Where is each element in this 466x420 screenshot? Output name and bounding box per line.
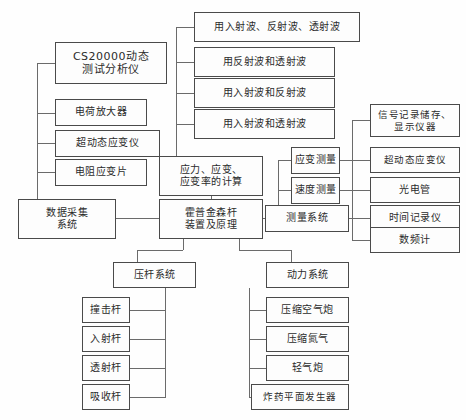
node-label: 应力、应变、 应变率的计算 [178, 164, 245, 188]
node-label: 电荷放大器 [73, 106, 130, 118]
node-label: 用入射波、反射波、透射波 [212, 21, 342, 33]
node-explosive-plane-generator[interactable]: 炸药平面发生器 [251, 384, 349, 410]
node-label: 压缩空气炮 [279, 304, 336, 316]
node-label: 动力系统 [285, 269, 331, 281]
node-velocity-measurement[interactable]: 速度测量 [291, 177, 340, 204]
node-wave-ref-trans[interactable]: 用反射波和透射波 [194, 47, 335, 77]
node-label: 炸药平面发生器 [261, 391, 339, 403]
node-compressed-air-gun[interactable]: 压缩空气炮 [266, 297, 349, 323]
node-wave-all-three[interactable]: 用入射波、反射波、透射波 [194, 12, 360, 42]
node-data-acquisition-system[interactable]: 数据采集 系统 [18, 199, 116, 239]
node-label: 透射杆 [88, 362, 124, 374]
node-label: 信号记录储存、 显示仪器 [376, 109, 454, 132]
node-signal-recorder[interactable]: 信号记录储存、 显示仪器 [370, 104, 460, 137]
node-transmission-bar[interactable]: 透射杆 [82, 355, 130, 381]
node-measurement-system[interactable]: 测量系统 [265, 205, 349, 232]
node-label: 速度测量 [293, 184, 339, 196]
node-label: 压缩氮气 [285, 333, 331, 345]
node-label: 电阻应变片 [73, 166, 130, 178]
node-label: 数据采集 系统 [44, 207, 90, 231]
node-cs20000[interactable]: CS20000动态 测试分析仪 [55, 42, 167, 84]
node-label: 撞击杆 [88, 304, 124, 316]
node-label: 测量系统 [284, 212, 330, 224]
node-compressed-nitrogen[interactable]: 压缩氮气 [266, 326, 349, 352]
node-label: 数频计 [397, 234, 433, 246]
node-label: 轻气炮 [290, 362, 326, 374]
node-label: 超动态应变仪 [74, 137, 141, 149]
node-label: CS20000动态 测试分析仪 [71, 50, 151, 77]
node-incident-bar[interactable]: 入射杆 [82, 326, 130, 352]
node-label: 用反射波和透射波 [221, 56, 309, 68]
node-wave-inc-ref[interactable]: 用入射波和反射波 [194, 78, 335, 108]
node-label: 用入射波和反射波 [221, 87, 309, 99]
node-label: 入射杆 [88, 333, 124, 345]
node-hopkinson-bar[interactable]: 霍普金森杆 装置及原理 [159, 199, 263, 239]
node-label: 光电管 [397, 184, 433, 196]
node-resistance-strain-gauge[interactable]: 电阻应变片 [55, 159, 147, 186]
node-label: 吸收杆 [88, 391, 124, 403]
node-charge-amplifier[interactable]: 电荷放大器 [55, 99, 147, 126]
node-power-system[interactable]: 动力系统 [266, 262, 349, 288]
node-strain-measurement[interactable]: 应变测量 [291, 147, 340, 174]
node-calculation[interactable]: 应力、应变、 应变率的计算 [159, 156, 263, 196]
node-light-gas-gun[interactable]: 轻气炮 [266, 355, 349, 381]
node-striker-bar[interactable]: 撞击杆 [82, 297, 130, 323]
node-label: 霍普金森杆 装置及原理 [183, 207, 240, 231]
node-label: 用入射波和透射波 [221, 118, 309, 130]
node-photoelectric-tube[interactable]: 光电管 [370, 177, 460, 203]
node-label: 应变测量 [293, 154, 339, 166]
node-bar-system[interactable]: 压杆系统 [113, 262, 196, 288]
node-label: 超动态应变仪 [382, 154, 449, 166]
diagram-canvas: 用入射波、反射波、透射波 用反射波和透射波 用入射波和反射波 用入射波和透射波 … [0, 0, 466, 420]
node-wave-inc-trans[interactable]: 用入射波和透射波 [194, 109, 335, 139]
node-absorption-bar[interactable]: 吸收杆 [82, 384, 130, 410]
node-label: 时间记录仪 [387, 212, 444, 224]
node-ultra-dynamic-strain-meter-2[interactable]: 超动态应变仪 [370, 147, 460, 173]
node-ultra-dynamic-strain-meter[interactable]: 超动态应变仪 [55, 130, 160, 157]
node-frequency-counter[interactable]: 数频计 [370, 227, 460, 253]
node-label: 压杆系统 [132, 269, 178, 281]
